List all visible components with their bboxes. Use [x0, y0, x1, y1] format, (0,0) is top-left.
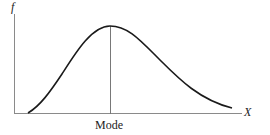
- density-curve: [28, 26, 232, 113]
- x-axis-label: X: [244, 106, 251, 118]
- y-axis-label: f: [11, 1, 14, 13]
- density-chart: [0, 0, 270, 135]
- mode-label: Mode: [95, 119, 123, 131]
